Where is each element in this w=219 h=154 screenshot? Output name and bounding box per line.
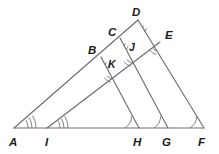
angle-mark-A <box>26 116 36 128</box>
vertex-label-K: K <box>108 58 117 70</box>
segment-B-to-H <box>101 57 139 128</box>
angle-mark-G <box>154 116 161 128</box>
angle-mark-F <box>190 116 197 128</box>
vertex-label-B: B <box>88 44 96 56</box>
segment-A-to-D <box>14 20 138 128</box>
vertex-label-I: I <box>45 136 49 148</box>
segment-C-to-G <box>120 38 168 128</box>
vertex-label-E: E <box>165 29 173 41</box>
angle-mark-J <box>124 60 132 67</box>
vertex-label-C: C <box>108 26 117 38</box>
vertex-label-J: J <box>129 41 136 53</box>
vertex-label-A: A <box>8 136 17 148</box>
vertex-label-F: F <box>198 136 206 148</box>
vertex-label-D: D <box>132 6 140 18</box>
vertex-label-H: H <box>133 136 142 148</box>
geometry-figure: A I H G F B C D E J K <box>0 0 219 154</box>
vertex-label-G: G <box>162 136 171 148</box>
angle-mark-H <box>125 116 132 128</box>
figure-canvas: A I H G F B C D E J K <box>0 0 219 154</box>
